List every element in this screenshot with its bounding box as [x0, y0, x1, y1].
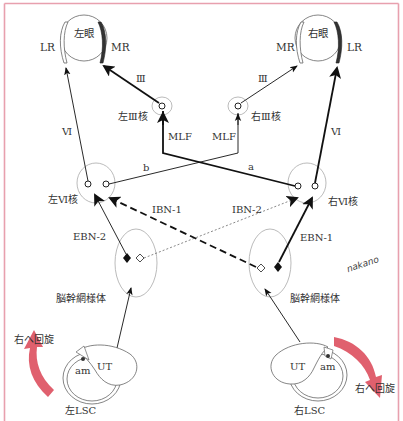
left-lsc-label: 左LSC — [65, 404, 96, 416]
left-eye-label: 左眼 — [74, 27, 95, 39]
right-eye: 右眼 MR LR — [276, 15, 363, 63]
left-ibn-diamond — [136, 254, 144, 262]
author-signature: nakano — [345, 254, 380, 274]
left-eye: 左眼 LR MR — [40, 15, 131, 63]
right-rotation-label: 右へ回旋 — [355, 382, 395, 394]
left-VI-nerve — [66, 68, 88, 181]
mlf-right-label: MLF — [212, 131, 236, 142]
ebn1-pathway — [279, 198, 312, 262]
left-VI-nucleus-label: 左Ⅵ核 — [48, 193, 78, 205]
left-ut-label: UT — [97, 361, 112, 372]
right-lsc: UT am 右LSC — [271, 343, 347, 416]
frame — [5, 4, 399, 421]
right-III-nerve-label: Ⅲ — [258, 73, 268, 84]
pathway-b-mlf — [109, 113, 238, 184]
right-III-nucleus-label: 右Ⅲ核 — [251, 110, 281, 122]
left-rotation-label: 右へ回旋 — [14, 333, 54, 345]
right-ibn-diamond — [257, 264, 265, 272]
ebn2-label: EBN-2 — [73, 231, 106, 242]
vestibulo-ocular-reflex-diagram: 左眼 LR MR 右眼 MR LR 左Ⅲ核 右Ⅲ核 Ⅲ Ⅲ 左Ⅵ核 右Ⅵ核 — [0, 0, 403, 421]
right-lsc-label: 右LSC — [294, 404, 325, 416]
right-VI-nucleus: 右Ⅵ核 — [288, 163, 358, 207]
right-III-nerve — [241, 66, 297, 103]
right-reticular-label: 脳幹網様体 — [290, 292, 340, 304]
right-ebn-diamond — [274, 262, 282, 272]
pathway-a-label: a — [248, 161, 254, 172]
right-VI-nerve-label: Ⅵ — [330, 126, 341, 137]
left-lsc-afferent — [117, 288, 131, 348]
left-lsc: am UT 左LSC — [63, 345, 137, 416]
right-mr-label: MR — [276, 41, 296, 53]
ibn2-label: IBN-2 — [232, 204, 262, 215]
mlf-left-label: MLF — [168, 131, 192, 142]
left-am-label: am — [75, 365, 91, 376]
right-am-label: am — [320, 361, 336, 372]
left-III-nucleus-label: 左Ⅲ核 — [118, 110, 148, 122]
left-III-nerve — [104, 66, 159, 103]
pathway-b-label: b — [143, 162, 149, 173]
right-lr-label: LR — [347, 41, 363, 53]
right-III-nucleus: 右Ⅲ核 — [228, 97, 281, 122]
left-mr-label: MR — [111, 41, 131, 53]
left-lr-label: LR — [40, 41, 56, 53]
ibn1-label: IBN-1 — [152, 204, 182, 215]
left-ebn-diamond — [123, 253, 131, 263]
right-ut-label: UT — [290, 361, 305, 372]
right-VI-nucleus-label: 右Ⅵ核 — [328, 195, 358, 207]
left-III-nerve-label: Ⅲ — [136, 73, 146, 84]
left-VI-nerve-label: Ⅵ — [61, 126, 72, 137]
left-VI-nucleus: 左Ⅵ核 — [48, 163, 115, 205]
left-reticular-formation: 脳幹網様体 — [56, 229, 157, 304]
ebn1-label: EBN-1 — [300, 232, 333, 243]
right-eye-label: 右眼 — [308, 27, 329, 39]
left-reticular-label: 脳幹網様体 — [56, 292, 106, 304]
pathway-a-mlf — [163, 111, 295, 186]
